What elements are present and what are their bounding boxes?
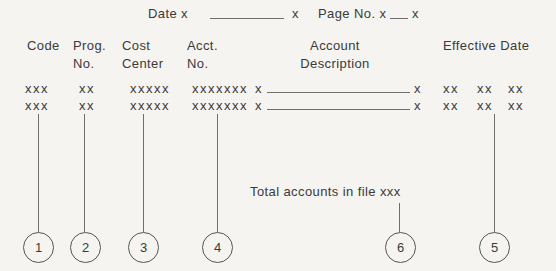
effective-date-day: xx bbox=[477, 81, 493, 96]
cost-center-value: xxxxx bbox=[130, 81, 170, 96]
column-header-effective-date: Effective Date bbox=[443, 37, 529, 55]
callout-circle-4: 4 bbox=[202, 232, 233, 263]
column-header-cost-line2: Center bbox=[122, 55, 163, 73]
callout-line-prog-no bbox=[84, 114, 85, 232]
effective-date-month: xx bbox=[443, 98, 459, 113]
column-header-prog-line1: Prog. bbox=[73, 37, 106, 55]
column-header-account-line2: Description bbox=[282, 55, 388, 73]
code-value: xxx bbox=[25, 98, 49, 113]
column-header-cost-center: Cost Center bbox=[122, 37, 163, 73]
callout-line-effective-date bbox=[494, 114, 495, 232]
column-header-cost-line1: Cost bbox=[122, 37, 163, 55]
effective-date-day: xx bbox=[477, 98, 493, 113]
page-no-label: Page No. x bbox=[318, 6, 386, 21]
column-header-acct-no: Acct. No. bbox=[187, 37, 218, 73]
description-fill-line bbox=[267, 109, 410, 110]
description-open-x: x bbox=[255, 98, 263, 113]
description-close-x: x bbox=[414, 81, 422, 96]
callout-line-cost-center bbox=[143, 114, 144, 232]
column-header-code-line1: Code bbox=[27, 37, 60, 55]
callout-circle-5: 5 bbox=[479, 232, 510, 263]
description-open-x: x bbox=[255, 81, 263, 96]
column-header-acct-line1: Acct. bbox=[187, 37, 218, 55]
column-header-effective-line1: Effective Date bbox=[443, 37, 529, 55]
column-header-code: Code bbox=[27, 37, 60, 55]
callout-line-code bbox=[38, 114, 39, 232]
date-field-label: Date x bbox=[148, 6, 188, 21]
callout-circle-2: 2 bbox=[70, 232, 101, 263]
effective-date-year: xx bbox=[508, 81, 524, 96]
callout-circle-3: 3 bbox=[128, 232, 159, 263]
callout-number: 2 bbox=[82, 240, 89, 255]
effective-date-month: xx bbox=[443, 81, 459, 96]
description-close-x: x bbox=[414, 98, 422, 113]
total-accounts-text: Total accounts in file xxx bbox=[250, 184, 401, 199]
column-header-prog-no: Prog. No. bbox=[73, 37, 106, 73]
date-fill-line bbox=[210, 18, 284, 19]
column-header-account-description: Account Description bbox=[282, 37, 388, 73]
column-header-acct-line2: No. bbox=[187, 55, 218, 73]
acct-no-value: xxxxxxx bbox=[192, 98, 248, 113]
callout-line-total-accounts bbox=[399, 203, 400, 232]
column-header-account-line1: Account bbox=[282, 37, 388, 55]
table-row: xxx xx xxxxx xxxxxxx x x xx xx xx bbox=[0, 81, 556, 98]
page-fill-line bbox=[390, 18, 408, 19]
callout-line-acct-no bbox=[217, 114, 218, 232]
callout-circle-1: 1 bbox=[23, 232, 54, 263]
prog-no-value: xx bbox=[79, 98, 95, 113]
callout-circle-6: 6 bbox=[385, 232, 416, 263]
page-close-x: x bbox=[412, 6, 419, 21]
callout-number: 4 bbox=[214, 240, 221, 255]
callout-number: 5 bbox=[491, 240, 498, 255]
column-header-prog-line2: No. bbox=[73, 55, 106, 73]
date-close-x: x bbox=[292, 6, 299, 21]
code-value: xxx bbox=[25, 81, 49, 96]
effective-date-year: xx bbox=[508, 98, 524, 113]
prog-no-value: xx bbox=[79, 81, 95, 96]
table-row: xxx xx xxxxx xxxxxxx x x xx xx xx bbox=[0, 98, 556, 115]
callout-number: 1 bbox=[35, 240, 42, 255]
acct-no-value: xxxxxxx bbox=[192, 81, 248, 96]
callout-number: 3 bbox=[140, 240, 147, 255]
callout-number: 6 bbox=[397, 240, 404, 255]
cost-center-value: xxxxx bbox=[130, 98, 170, 113]
description-fill-line bbox=[267, 92, 410, 93]
